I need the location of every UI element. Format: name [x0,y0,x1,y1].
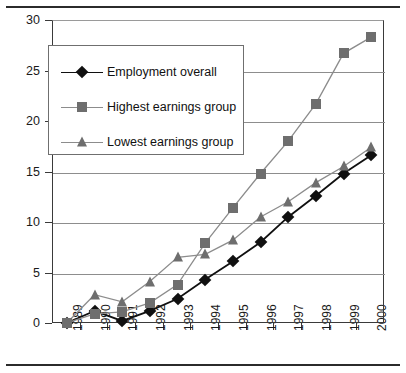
legend-item-highest-earnings-group: Highest earnings group [61,99,236,115]
y-axis-tick-label: 0 [2,317,40,330]
chart-figure: 051015202530 198919901991199219931994199… [0,0,406,373]
legend-label-employment-overall: Employment overall [103,65,217,79]
bottom-divider-rule [6,364,400,366]
y-axis-tick-mark [45,172,52,173]
legend-swatch-square-icon [61,100,103,114]
y-axis-tick-mark [45,20,52,21]
legend-item-lowest-earnings-group: Lowest earnings group [61,134,233,150]
y-axis-tick-mark [45,222,52,223]
series-line [67,147,371,323]
y-axis-tick-mark [45,323,52,324]
y-axis-tick-label: 5 [2,267,40,280]
top-divider-rule [6,6,400,8]
y-axis-tick-label: 10 [2,216,40,229]
legend-label-highest-earnings-group: Highest earnings group [103,100,236,114]
legend-swatch-diamond-icon [61,65,103,79]
legend-swatch-triangle-icon [61,135,103,149]
y-axis-tick-label: 30 [2,14,40,27]
y-axis-tick-label: 15 [2,166,40,179]
legend-item-employment-overall: Employment overall [61,64,217,80]
series-line [67,155,371,323]
y-axis-tick-mark [45,273,52,274]
y-axis-tick-label: 25 [2,65,40,78]
y-axis-tick-label: 20 [2,115,40,128]
chart-legend: Employment overall Highest earnings grou… [48,45,244,155]
legend-label-lowest-earnings-group: Lowest earnings group [103,135,233,149]
